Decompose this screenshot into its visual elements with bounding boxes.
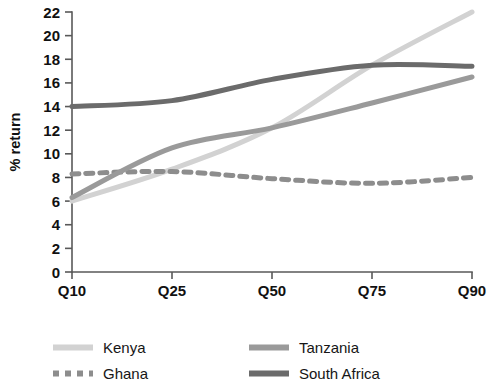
series-group <box>72 12 472 201</box>
y-tick-label: 14 <box>43 98 60 115</box>
x-tick-label: Q50 <box>258 282 286 299</box>
plot-area: 0246810121416182022 Q10Q25Q50Q75Q90 % re… <box>0 0 500 300</box>
x-tick-label: Q90 <box>458 282 486 299</box>
y-tick-label: 10 <box>43 145 60 162</box>
legend-label-kenya: Kenya <box>103 340 146 355</box>
legend-label-south-africa: South Africa <box>299 366 380 381</box>
chart-legend: Kenya Tanzania Ghana South Africa <box>0 334 500 386</box>
y-tick-label: 8 <box>52 169 60 186</box>
y-axis-title: % return <box>7 113 23 172</box>
legend-item-south-africa: South Africa <box>248 360 448 386</box>
y-tick-label: 12 <box>43 122 60 139</box>
y-tick-label: 22 <box>43 4 60 21</box>
legend-swatch-kenya <box>52 344 94 351</box>
x-tick-group: Q10Q25Q50Q75Q90 <box>58 272 486 299</box>
x-tick-label: Q10 <box>58 282 86 299</box>
series-line-south-africa <box>72 64 472 106</box>
y-axis: 0246810121416182022 <box>43 4 72 281</box>
legend-label-tanzania: Tanzania <box>299 340 359 355</box>
y-tick-label: 6 <box>52 193 60 210</box>
y-tick-label: 20 <box>43 27 60 44</box>
y-tick-label: 0 <box>52 264 60 281</box>
x-tick-label: Q75 <box>358 282 386 299</box>
line-chart-figure: 0246810121416182022 Q10Q25Q50Q75Q90 % re… <box>0 0 500 386</box>
x-tick-label: Q25 <box>158 282 186 299</box>
y-tick-label: 4 <box>52 216 61 233</box>
legend-item-ghana: Ghana <box>52 360 212 386</box>
y-tick-group: 0246810121416182022 <box>43 4 72 281</box>
legend-swatch-ghana <box>52 370 94 377</box>
chart-canvas: 0246810121416182022 Q10Q25Q50Q75Q90 % re… <box>0 0 500 300</box>
legend-swatch-tanzania <box>248 344 290 351</box>
legend-item-tanzania: Tanzania <box>248 334 448 360</box>
y-tick-label: 2 <box>52 240 60 257</box>
legend-label-ghana: Ghana <box>103 366 148 381</box>
x-axis: Q10Q25Q50Q75Q90 <box>58 272 486 299</box>
y-tick-label: 18 <box>43 51 60 68</box>
y-tick-label: 16 <box>43 74 60 91</box>
legend-item-kenya: Kenya <box>52 334 212 360</box>
legend-swatch-south-africa <box>248 370 290 377</box>
